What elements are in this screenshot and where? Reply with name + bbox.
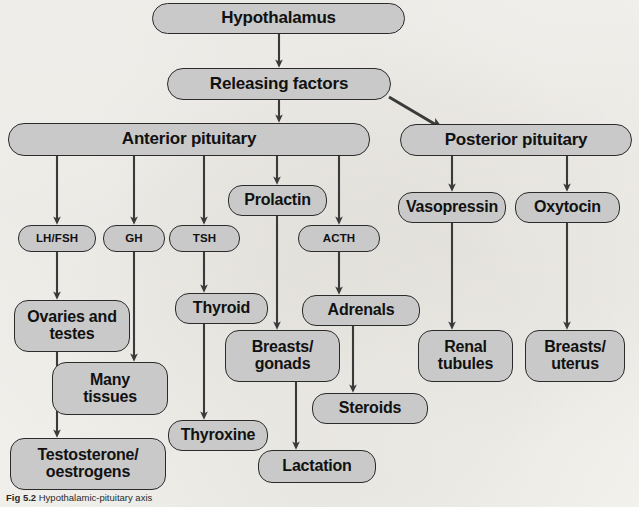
node-breastsuterus: Breasts/ uterus [525, 330, 625, 382]
node-label-vasopressin: Vasopressin [406, 199, 498, 216]
node-ovaries: Ovaries and testes [14, 300, 130, 352]
node-label-prolactin: Prolactin [244, 192, 311, 209]
node-label-renal: Renal tubules [438, 339, 494, 373]
node-lactation: Lactation [258, 450, 376, 483]
node-thyroxine: Thyroxine [168, 420, 268, 451]
figure-canvas: HypothalamusReleasing factorsAnterior pi… [0, 0, 639, 507]
node-prolactin: Prolactin [228, 185, 327, 216]
node-label-breastsgonads: Breasts/ gonads [252, 339, 314, 373]
node-label-oxytocin: Oxytocin [534, 199, 601, 216]
node-label-posterior: Posterior pituitary [445, 131, 588, 149]
node-posterior: Posterior pituitary [400, 124, 632, 156]
node-renal: Renal tubules [418, 330, 513, 382]
node-vasopressin: Vasopressin [398, 192, 506, 223]
figure-caption: Fig 5.2 Hypothalamic-pituitary axis [6, 492, 152, 503]
node-releasing: Releasing factors [167, 68, 391, 100]
node-label-steroids: Steroids [339, 400, 401, 417]
node-adrenals: Adrenals [302, 295, 420, 326]
node-tsh: TSH [169, 225, 240, 252]
node-label-tsh: TSH [193, 232, 216, 244]
node-steroids: Steroids [312, 393, 428, 424]
node-gh: GH [103, 225, 165, 252]
node-oxytocin: Oxytocin [515, 192, 620, 223]
node-label-adrenals: Adrenals [328, 302, 395, 319]
node-testosterone: Testosterone/ oestrogens [10, 438, 166, 490]
node-label-lhfsh: LH/FSH [36, 232, 78, 244]
node-label-acth: ACTH [323, 232, 355, 244]
node-acth: ACTH [298, 225, 380, 252]
node-thyroid: Thyroid [175, 293, 268, 324]
node-label-gh: GH [125, 232, 142, 244]
node-label-thyroid: Thyroid [193, 300, 250, 317]
node-label-anterior: Anterior pituitary [122, 130, 256, 148]
caption-text: Hypothalamic-pituitary axis [39, 492, 153, 503]
node-anterior: Anterior pituitary [8, 123, 370, 156]
node-manytissues: Many tissues [52, 362, 168, 415]
node-label-manytissues: Many tissues [83, 372, 137, 406]
node-lhfsh: LH/FSH [18, 225, 96, 252]
node-label-thyroxine: Thyroxine [181, 427, 256, 444]
node-breastsgonads: Breasts/ gonads [225, 330, 340, 382]
node-label-testosterone: Testosterone/ oestrogens [37, 447, 138, 481]
edge-releasing-posterior [389, 97, 438, 126]
node-label-breastsuterus: Breasts/ uterus [544, 339, 606, 373]
node-label-hypothalamus: Hypothalamus [221, 9, 336, 27]
node-label-lactation: Lactation [282, 458, 351, 475]
node-hypothalamus: Hypothalamus [152, 3, 405, 34]
node-label-releasing: Releasing factors [210, 75, 348, 93]
caption-label: Fig 5.2 [6, 492, 36, 503]
node-label-ovaries: Ovaries and testes [27, 309, 116, 343]
